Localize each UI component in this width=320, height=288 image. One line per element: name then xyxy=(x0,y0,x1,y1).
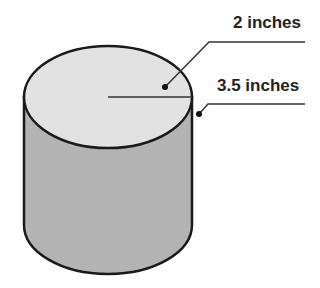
radius-leader-dot xyxy=(162,84,168,90)
height-label: 3.5 inches xyxy=(217,76,299,96)
height-leader-line xyxy=(199,104,305,114)
radius-label: 2 inches xyxy=(233,13,301,33)
cylinder-diagram xyxy=(0,0,320,288)
height-leader-dot xyxy=(196,111,202,117)
